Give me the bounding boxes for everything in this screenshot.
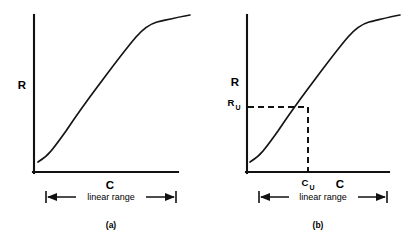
panel-a-x-axis-label: C	[106, 179, 114, 191]
panel-b-linear-range-indicator: linear range	[259, 191, 387, 203]
panel-a: C R linear range (a)	[18, 15, 190, 230]
panel-a-calibration-curve	[38, 15, 190, 162]
panel-a-y-axis-label: R	[18, 79, 27, 91]
panel-b-y-axis-label: R	[231, 76, 240, 88]
panel-a-range-left-arrow-icon	[47, 193, 57, 201]
panel-b-working-point-x-label-main: C	[302, 177, 309, 188]
panel-a-range-label: linear range	[87, 192, 135, 202]
panel-b-working-point-y-label-main: R	[228, 97, 235, 108]
panel-a-linear-range-indicator: linear range	[46, 191, 176, 203]
panel-b-calibration-curve	[250, 15, 400, 162]
panel-b-x-axis-label: C	[336, 178, 344, 190]
panel-a-caption: (a)	[106, 220, 117, 230]
panel-a-range-right-arrow-icon	[165, 193, 175, 201]
panel-b-caption: (b)	[313, 220, 324, 230]
panel-b-working-point-y-label-sub: U	[235, 104, 240, 111]
panel-b-working-point-y-label: R U	[228, 97, 241, 111]
figure-container: C R linear range (a)	[0, 0, 417, 241]
panel-b-working-point-x-label-sub: U	[309, 184, 314, 191]
panel-b-range-left-arrow-icon	[260, 193, 270, 201]
panel-b: R R U C U C linear range	[228, 15, 400, 230]
panel-b-working-point-x-label: C U	[302, 177, 315, 191]
panel-b-range-label: linear range	[299, 192, 347, 202]
panel-b-range-right-arrow-icon	[376, 193, 386, 201]
